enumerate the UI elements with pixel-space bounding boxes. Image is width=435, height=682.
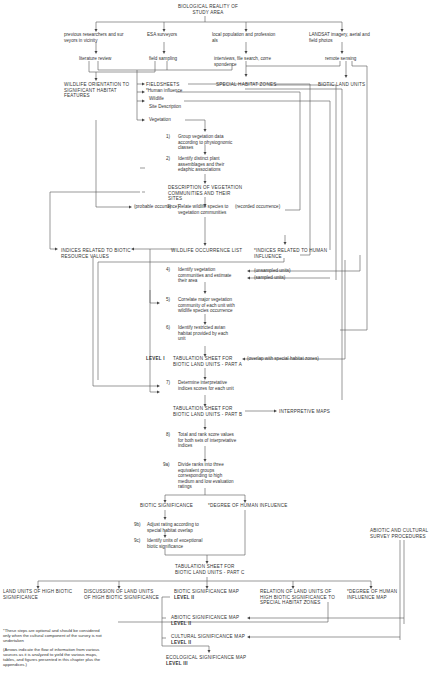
wildlife-orientation: WILDLIFE ORIENTATION TO SIGNIFICANT HABI… (64, 82, 129, 99)
tabulation-part-b: TABULATION SHEET FOR BIOTIC LAND UNITS -… (173, 406, 242, 417)
step-2-text: Identify distinct plant assemblages and … (178, 156, 224, 173)
source-local: local population and profession als (212, 32, 275, 43)
source-landsat: LANDSAT imagery, aerial and field photos (309, 32, 370, 43)
tabulation-part-a: TABULATION SHEET FOR BIOTIC LAND UNITS -… (173, 356, 242, 367)
method-field: field sampling (149, 56, 177, 62)
special-habitat-zones: SPECIAL HABITAT ZONES (216, 82, 276, 88)
degree-human-influence: *DEGREE OF HUMAN INFLUENCE (208, 503, 287, 509)
recorded-occurrence: (recorded occurrence) (235, 204, 280, 210)
step-1-text: Group vegetation data according to physi… (178, 134, 232, 151)
method-literature: literature review (79, 56, 111, 62)
ecological-map-level: LEVEL III (166, 661, 188, 667)
biotic-land-units: BIOTIC LAND UNITS (318, 82, 365, 88)
probable-occurrence: (probable occurrence) (134, 204, 179, 210)
fieldsheet-human: *Human influence (146, 88, 182, 94)
indices-human: *INDICES RELATED TO HUMAN INFLUENCE (254, 248, 327, 259)
unsampled-units: (unsampled units) (254, 268, 291, 274)
step-2-num: 2) (166, 156, 170, 162)
footnote-arrows: (Arrows indicate the flow of information… (3, 647, 100, 667)
cultural-map-level: LEVEL II (171, 640, 191, 646)
indices-biotic: INDICES RELATED TO BIOTIC RESOURCE VALUE… (61, 248, 131, 259)
step-8-text: Total and rank score values for both set… (178, 432, 236, 449)
abiotic-map-level: LEVEL II (171, 621, 191, 627)
cultural-map-title: CULTURAL SIGNIFICANCE MAP (171, 634, 245, 640)
fieldsheet-site: Site Description (149, 104, 181, 110)
abiotic-map-title: ABIOTIC SIGNIFICANCE MAP (171, 615, 239, 621)
step-9a-text: Divide ranks into three equivalent group… (178, 462, 234, 490)
source-esa: ESA surveyors (147, 32, 177, 38)
step-7-num: 7) (166, 380, 170, 386)
step-5-num: 5) (166, 297, 170, 303)
output-human-map: *DEGREE OF HUMAN INFLUENCE MAP (347, 589, 397, 600)
biotic-significance: BIOTIC SIGNIFICANCE (140, 503, 193, 509)
method-interviews: interviews, file search, corre spondence (214, 56, 271, 67)
step-9a-num: 9a) (163, 462, 170, 468)
step-5-text: Correlate major vegetation community of … (178, 297, 235, 314)
step-9c-num: 9c) (134, 538, 140, 544)
output-relation: RELATION OF LAND UNITS OF HIGH BIOTIC SI… (260, 589, 335, 606)
level-1-label: LEVEL I (146, 356, 165, 362)
sampled-units: (sampled units) (254, 275, 285, 281)
footnote-optional: *These steps are optional and should be … (3, 628, 102, 643)
output-biotic-map-level: LEVEL II (174, 595, 194, 601)
step-9b-num: 9b) (134, 522, 141, 528)
step-7-text: Determine interpretative indices scores … (178, 380, 234, 391)
step-9c-text: Identify units of exceptional biotic sig… (147, 538, 202, 549)
step-9b-text: Adjust rating according to special habit… (147, 522, 199, 533)
tabulation-part-c: TABULATION SHEET FOR BIOTIC LAND UNITS -… (175, 564, 245, 575)
wildlife-occurrence-list: WILDLIFE OCCURRENCE LIST (171, 248, 242, 254)
step-6-text: Identify restricted avian habitat provid… (178, 325, 228, 342)
step-3-num: 3) (167, 204, 171, 210)
fieldsheet-wildlife: Wildlife (149, 96, 164, 102)
output-biotic-map: BIOTIC SIGNIFICANCE MAP (174, 589, 239, 595)
fieldsheet-vegetation: Vegetation (149, 117, 171, 123)
fieldsheets-title: FIELDSHEETS (146, 82, 180, 88)
step-4-num: 4) (166, 267, 170, 273)
method-remote: remote sensing (325, 56, 356, 62)
step-6-num: 6) (166, 325, 170, 331)
overlap-habitat: (overlap with special habitat zones) (247, 356, 319, 362)
title-node: BIOLOGICAL REALITY OF STUDY AREA (178, 4, 238, 15)
step-3-text: Relate wildlife species to vegetation co… (178, 204, 228, 215)
output-discussion: DISCUSSION OF LAND UNITS OF HIGH BIOTIC … (84, 589, 159, 600)
output-land-units: LAND UNITS OF HIGH BIOTIC SIGNIFICANCE (3, 589, 72, 600)
step-8-num: 8) (166, 432, 170, 438)
interpretive-maps: INTERPRETIVE MAPS (279, 409, 330, 415)
description-vegetation: DESCRIPTION OF VEGETATION COMMUNITIES AN… (168, 185, 242, 202)
ecological-map-title: ECOLOGICAL SIGNIFICANCE MAP (166, 655, 246, 661)
step-1-num: 1) (166, 134, 170, 140)
abiotic-cultural-procedures: ABIOTIC AND CULTURAL SURVEY PROCEDURES (370, 528, 428, 539)
step-4-text: Identify vegetation communities and esti… (178, 267, 231, 284)
source-researchers: previous researchers and sur veyors in v… (64, 32, 124, 43)
